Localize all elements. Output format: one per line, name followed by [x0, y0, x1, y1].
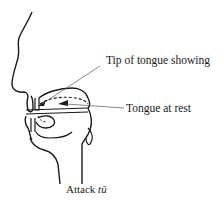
upper-teeth	[35, 98, 39, 110]
leader-line-tip	[42, 66, 100, 104]
face-profile-outline	[12, 12, 32, 97]
label-tongue-at-rest: Tongue at rest	[126, 102, 191, 114]
leader-line-rest	[66, 104, 124, 108]
mouth-cross-section-diagram: Tip of tongue showing Tongue at rest Att…	[0, 0, 224, 212]
caption-prefix: Attack	[66, 183, 98, 195]
inner-jaw	[36, 132, 72, 138]
caption-syllable: tū	[98, 183, 107, 195]
lower-teeth	[31, 118, 35, 132]
back-arrow-icon	[58, 100, 68, 106]
chin-throat-outline	[30, 138, 60, 184]
label-tip-of-tongue: Tip of tongue showing	[106, 54, 210, 66]
pharynx-outline	[82, 108, 91, 184]
diagram-caption: Attack tū	[66, 183, 107, 195]
